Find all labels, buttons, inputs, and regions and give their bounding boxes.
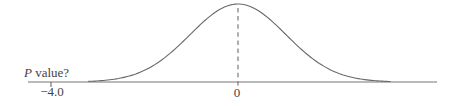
- p-value-annotation: P value?: [24, 67, 69, 79]
- normal-curve-figure: P value? −4.0 0: [0, 0, 458, 106]
- normal-curve: [88, 4, 390, 81]
- tick-label-zero: 0: [227, 87, 247, 99]
- tick-label-minus-4: −4.0: [34, 86, 70, 98]
